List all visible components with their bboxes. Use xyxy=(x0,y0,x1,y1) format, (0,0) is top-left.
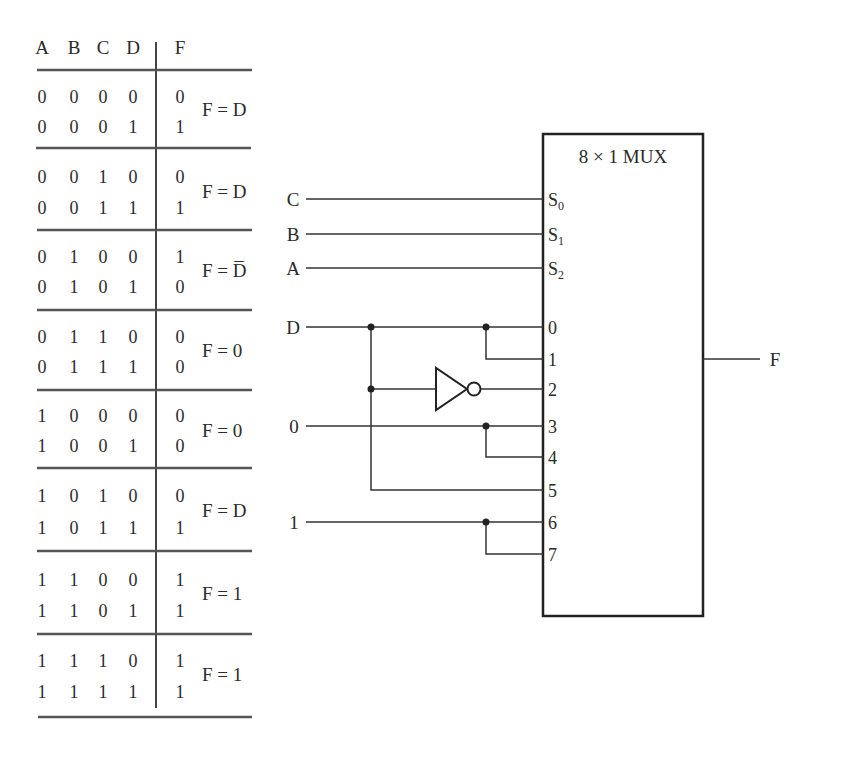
group-expression: F = D̅ xyxy=(202,260,247,281)
mux-circuit: 8 × 1 MUX C B A S0 S1 S2 xyxy=(286,134,780,616)
table-row: 0 0 1 1 1 xyxy=(38,198,185,218)
table-row: 1 0 0 0 0 xyxy=(38,406,185,426)
pin-1: 1 xyxy=(548,350,557,370)
table-row: 0 0 1 0 0 xyxy=(38,167,185,187)
cell-c: 1 xyxy=(99,198,108,218)
table-group: 0 0 0 0 0 0 0 0 1 1 F = D xyxy=(38,87,247,137)
cell-f: 1 xyxy=(176,117,185,137)
cell-b: 1 xyxy=(70,651,79,671)
pin-2: 2 xyxy=(548,380,557,400)
junction-dot-icon xyxy=(483,324,490,331)
cell-a: 0 xyxy=(38,167,47,187)
pin-s2: S2 xyxy=(548,259,564,282)
cell-d: 0 xyxy=(129,406,138,426)
cell-c: 1 xyxy=(99,682,108,702)
cell-c: 0 xyxy=(99,601,108,621)
cell-a: 1 xyxy=(38,682,47,702)
cell-d: 1 xyxy=(129,436,138,456)
cell-f: 0 xyxy=(176,167,185,187)
table-group: 1 1 0 0 1 1 1 0 1 1 F = 1 xyxy=(38,570,243,621)
table-row: 1 1 0 1 1 xyxy=(38,601,185,621)
cell-c: 1 xyxy=(99,651,108,671)
cell-c: 1 xyxy=(99,327,108,347)
header-c: C xyxy=(97,37,110,58)
mux-title: 8 × 1 MUX xyxy=(579,146,668,167)
group-expression: F = 1 xyxy=(202,664,242,685)
junction-dot-icon xyxy=(368,386,375,393)
cell-a: 0 xyxy=(38,277,47,297)
table-rules xyxy=(36,70,252,717)
cell-b: 0 xyxy=(70,486,79,506)
group-expression: F = 0 xyxy=(202,340,242,361)
pin-s1: S1 xyxy=(548,225,564,248)
cell-a: 1 xyxy=(38,570,47,590)
data-pin-labels: 0 1 2 3 4 5 6 7 xyxy=(548,318,557,565)
cell-f: 1 xyxy=(176,682,185,702)
cell-a: 0 xyxy=(38,87,47,107)
cell-d: 1 xyxy=(129,518,138,538)
pin-6: 6 xyxy=(548,513,557,533)
cell-c: 0 xyxy=(99,247,108,267)
cell-c: 1 xyxy=(99,167,108,187)
cell-b: 1 xyxy=(70,682,79,702)
table-row: 0 1 1 0 0 xyxy=(38,327,185,347)
input-b-label: B xyxy=(287,224,300,245)
cell-c: 0 xyxy=(99,87,108,107)
pin-s0: S0 xyxy=(548,190,564,213)
cell-f: 0 xyxy=(176,486,185,506)
table-row: 1 1 1 0 1 xyxy=(38,651,185,671)
cell-a: 0 xyxy=(38,357,47,377)
junction-dot-icon xyxy=(368,324,375,331)
input-c-label: C xyxy=(287,189,300,210)
table-row: 0 1 0 0 1 xyxy=(38,247,185,267)
cell-c: 0 xyxy=(99,117,108,137)
group-expression: F = 1 xyxy=(202,583,242,604)
input-zero-label: 0 xyxy=(289,416,299,437)
cell-f: 1 xyxy=(176,651,185,671)
cell-b: 0 xyxy=(70,87,79,107)
select-wires xyxy=(306,199,543,268)
cell-f: 0 xyxy=(176,357,185,377)
cell-d: 0 xyxy=(129,247,138,267)
cell-f: 0 xyxy=(176,327,185,347)
cell-d: 1 xyxy=(129,117,138,137)
cell-a: 1 xyxy=(38,518,47,538)
cell-f: 0 xyxy=(176,277,185,297)
table-group: 0 1 1 0 0 0 1 1 1 0 F = 0 xyxy=(38,327,243,377)
cell-c: 1 xyxy=(99,357,108,377)
mux-block xyxy=(543,134,703,616)
cell-c: 0 xyxy=(99,570,108,590)
table-group: 1 1 1 0 1 1 1 1 1 1 F = 1 xyxy=(38,651,243,702)
group-expression: F = 0 xyxy=(202,420,242,441)
cell-a: 0 xyxy=(38,327,47,347)
header-b: B xyxy=(68,37,81,58)
cell-b: 1 xyxy=(70,277,79,297)
cell-b: 0 xyxy=(70,198,79,218)
cell-a: 0 xyxy=(38,198,47,218)
cell-c: 1 xyxy=(99,486,108,506)
table-row: 0 0 0 1 1 xyxy=(38,117,185,137)
junction-dot-icon xyxy=(483,423,490,430)
table-row: 0 0 0 0 0 xyxy=(38,87,185,107)
input-d-label: D xyxy=(286,317,300,338)
cell-f: 0 xyxy=(176,406,185,426)
cell-b: 0 xyxy=(70,436,79,456)
cell-f: 1 xyxy=(176,518,185,538)
cell-a: 1 xyxy=(38,651,47,671)
junction-dot-icon xyxy=(483,519,490,526)
group-expression: F = D xyxy=(202,500,247,521)
data-wires xyxy=(306,327,543,554)
cell-d: 0 xyxy=(129,486,138,506)
table-group: 0 1 0 0 1 0 1 0 1 0 F = D̅ xyxy=(38,247,247,297)
cell-f: 1 xyxy=(176,570,185,590)
cell-b: 0 xyxy=(70,406,79,426)
table-row: 1 1 0 0 1 xyxy=(38,570,185,590)
cell-a: 1 xyxy=(38,601,47,621)
table-row: 0 1 1 1 0 xyxy=(38,357,185,377)
cell-d: 0 xyxy=(129,570,138,590)
input-one-label: 1 xyxy=(289,512,299,533)
cell-f: 0 xyxy=(176,87,185,107)
cell-d: 0 xyxy=(129,327,138,347)
not-gate-icon xyxy=(436,368,481,410)
cell-f: 1 xyxy=(176,601,185,621)
